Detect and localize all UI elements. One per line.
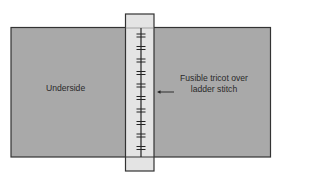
underside-label: Underside: [46, 83, 85, 94]
tricot-callout-label: Fusible tricot over ladder stitch: [172, 73, 256, 95]
tricot-callout-line-1: Fusible tricot over: [172, 73, 256, 84]
fusible-tricot-strip: [126, 14, 155, 171]
tricot-callout-line-2: ladder stitch: [172, 84, 256, 95]
